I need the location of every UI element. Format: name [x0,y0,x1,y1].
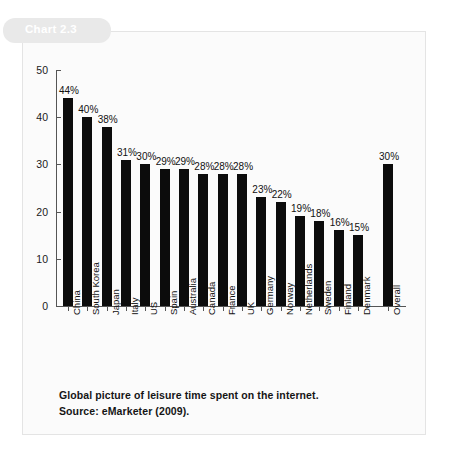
bar [160,169,170,306]
caption-source: Source: eMarketer (2009). [59,403,409,419]
chart-number-tag: Chart 2.3 [3,18,111,43]
x-axis-tick [107,306,108,311]
x-axis-tick [184,306,185,311]
x-axis-category-label: Italy [130,298,140,315]
bar-value-label: 28% [214,162,234,172]
bar-value-label: 15% [349,223,369,233]
x-axis-tick [281,306,282,311]
x-axis-category-label: Overall [392,285,402,315]
bar-value-label: 22% [272,190,292,200]
bar-value-label: 28% [194,162,214,172]
y-axis-tick [56,212,61,213]
figure-panel: 01020304050 44%40%38%31%30%29%29%28%28%2… [22,31,426,435]
x-axis-category-label: UK [246,302,256,315]
bar-value-label: 29% [175,157,195,167]
bar [102,127,112,306]
x-axis-tick [339,306,340,311]
x-axis-category-label: Canada [207,282,217,315]
bar-value-label: 29% [156,157,176,167]
bar [237,174,247,306]
y-axis-tick-label: 50 [8,65,48,76]
x-axis-category-label: US [149,302,159,315]
y-axis-tick [56,70,61,71]
x-axis-tick [145,306,146,311]
x-axis-category-label: South Korea [91,262,101,315]
x-axis-category-label: Sweden [323,281,333,315]
x-axis-category-label: France [227,285,237,315]
bar-value-label: 38% [98,115,118,125]
bar-value-label: 23% [252,185,272,195]
x-axis-tick [358,306,359,311]
bar-value-label: 19% [291,204,311,214]
bar-value-label: 31% [117,148,137,158]
y-axis-tick-label: 20 [8,207,48,218]
y-axis-tick [56,164,61,165]
chart-number-label: Chart 2.3 [25,23,77,35]
bar [140,164,150,306]
x-axis-category-label: Norway [285,283,295,315]
y-axis-tick [56,259,61,260]
y-axis-tick-label: 0 [8,301,48,312]
y-axis-line [56,70,57,306]
bar-value-label: 18% [310,209,330,219]
x-axis-tick [261,306,262,311]
x-axis-tick [165,306,166,311]
bar [63,98,73,306]
bar-value-label: 30% [136,152,156,162]
bar-chart-plot: 01020304050 44%40%38%31%30%29%29%28%28%2… [23,32,427,436]
x-axis-tick [203,306,204,311]
y-axis-tick-label: 30 [8,159,48,170]
y-axis-tick [56,117,61,118]
x-axis-tick [223,306,224,311]
x-axis-tick [126,306,127,311]
x-axis-tick [388,306,389,311]
x-axis-category-label: Denmark [362,276,372,315]
x-axis-category-label: Germany [265,276,275,315]
x-axis-tick [319,306,320,311]
x-axis-category-label: Japan [111,289,121,315]
caption: Global picture of leisure time spent on … [59,387,409,420]
bar-value-label: 44% [59,86,79,96]
x-axis-tick [300,306,301,311]
x-axis-category-label: Australia [188,278,198,315]
x-axis-tick [242,306,243,311]
x-axis-category-label: China [72,290,82,315]
bar-value-label: 16% [330,218,350,228]
caption-description: Global picture of leisure time spent on … [59,387,409,403]
y-axis-tick [56,306,61,307]
x-axis-category-label: Spain [169,291,179,315]
bar-value-label: 30% [379,152,399,162]
x-axis-category-label: Finland [343,284,353,315]
x-axis-tick [68,306,69,311]
y-axis-tick-label: 10 [8,254,48,265]
bar-value-label: 28% [233,162,253,172]
y-axis-tick-label: 40 [8,112,48,123]
x-axis-tick [87,306,88,311]
bar-value-label: 40% [78,105,98,115]
x-axis-category-label: Netherlands [304,264,314,315]
bar [121,160,131,306]
